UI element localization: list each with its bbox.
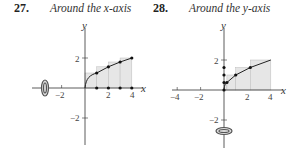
svg-text:2: 2 [75,54,80,64]
figures: −2 2 4 2 −2 y x −4 −2 [0,0,301,154]
svg-text:2: 2 [214,56,219,66]
svg-text:4: 4 [268,92,273,102]
svg-text:4: 4 [130,90,135,100]
svg-text:−2: −2 [209,115,219,125]
svg-text:−2: −2 [55,90,65,100]
svg-text:−4: −4 [170,92,180,102]
svg-text:x: x [280,84,286,96]
rotation-arrow-icon [42,80,49,96]
rotation-arrow-icon [216,128,232,135]
svg-text:2: 2 [245,92,250,102]
svg-text:−2: −2 [70,113,80,123]
svg-text:2: 2 [106,90,111,100]
svg-text:−2: −2 [194,92,204,102]
svg-text:y: y [81,19,87,31]
svg-text:y: y [220,19,226,31]
plot-28: −4 −2 2 4 2 −2 y x [170,19,286,148]
svg-text:x: x [140,82,146,94]
plot-27: −2 2 4 2 −2 y x [32,19,146,145]
